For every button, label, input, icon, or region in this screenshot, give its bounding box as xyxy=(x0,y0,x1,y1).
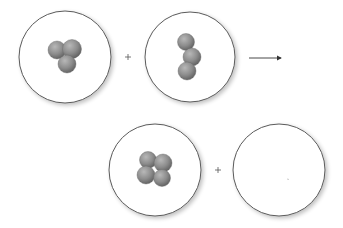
circles-layer xyxy=(19,11,325,216)
particle-sphere xyxy=(154,154,172,172)
diagram-canvas xyxy=(0,0,343,228)
product-circle xyxy=(109,124,201,216)
container-circle xyxy=(109,124,201,216)
particle-sphere xyxy=(58,55,76,73)
reactant-circle xyxy=(19,11,111,103)
particle-sphere xyxy=(154,170,171,187)
plus-icon xyxy=(215,167,221,173)
plus-icon xyxy=(125,54,131,60)
particle-sphere xyxy=(137,166,155,184)
particle-sphere xyxy=(178,62,196,80)
product-circle xyxy=(233,124,325,216)
container-circle xyxy=(233,124,325,216)
particle-sphere xyxy=(140,152,157,169)
reactant-circle xyxy=(145,12,235,102)
